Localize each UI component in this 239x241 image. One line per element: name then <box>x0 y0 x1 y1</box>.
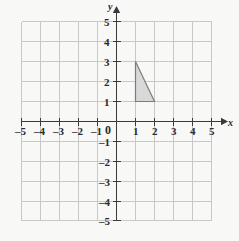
y-tick-label-neg3: –3 <box>99 177 110 188</box>
coordinate-plane-svg <box>0 0 239 241</box>
x-tick-label-5: 5 <box>209 126 215 137</box>
x-tick-label-neg3: –3 <box>53 126 64 137</box>
y-tick-label-3: 3 <box>104 57 110 68</box>
x-axis-label: x <box>228 118 233 128</box>
coordinate-plane-figure: –5 –4 –3 –2 –1 1 2 3 4 5 5 4 3 2 1 –1 –2… <box>0 0 239 241</box>
origin-label: 0 <box>105 124 111 136</box>
y-tick-label-neg2: –2 <box>99 157 110 168</box>
y-tick-label-5: 5 <box>104 17 110 28</box>
y-tick-label-4: 4 <box>104 37 110 48</box>
x-tick-label-3: 3 <box>171 126 177 137</box>
y-axis-label: y <box>108 2 112 12</box>
y-tick-label-2: 2 <box>104 77 110 88</box>
y-axis <box>113 6 120 221</box>
y-tick-label-neg4: –4 <box>99 197 110 208</box>
y-tick-label-neg5: –5 <box>99 216 110 227</box>
x-tick-label-neg4: –4 <box>34 126 45 137</box>
x-tick-label-neg2: –2 <box>72 126 83 137</box>
x-tick-label-4: 4 <box>190 126 196 137</box>
y-tick-label-neg1: –1 <box>99 137 110 148</box>
y-tick-label-1: 1 <box>104 97 110 108</box>
x-tick-label-1: 1 <box>133 126 139 137</box>
x-tick-label-2: 2 <box>152 126 158 137</box>
x-tick-label-neg5: –5 <box>15 126 26 137</box>
